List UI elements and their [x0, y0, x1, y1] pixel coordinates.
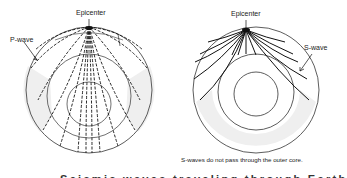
s-wave-note: S-waves do not pass through the outer co…: [181, 156, 303, 163]
s-wave-diagram: [193, 20, 319, 153]
p-epicenter-label: Epicenter: [76, 9, 106, 16]
s-wave-label: S-wave: [304, 44, 327, 51]
figure-caption: Seismic waves traveling through Earth: [60, 172, 347, 178]
s-epicenter-label: Epicenter: [231, 10, 261, 17]
p-wave-diagram: [23, 19, 154, 153]
p-wave-label: P-wave: [10, 36, 33, 43]
